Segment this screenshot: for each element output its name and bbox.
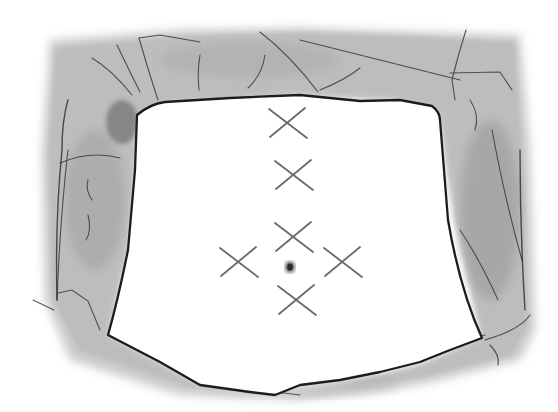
surgical-illustration <box>0 0 558 412</box>
umbilicus-core <box>287 263 293 270</box>
drape-shading <box>65 130 125 270</box>
drape-shading <box>460 120 520 300</box>
operative-field <box>108 95 482 395</box>
drape-shading <box>160 42 340 78</box>
drape-shading <box>106 100 138 144</box>
